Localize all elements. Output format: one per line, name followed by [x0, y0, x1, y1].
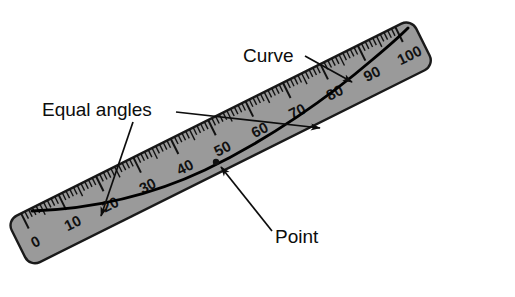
tangent-ruler-diagram: 0102030405060708090100 Curve Equal angle… [0, 0, 515, 297]
equal-angles-label: Equal angles [42, 99, 152, 120]
annotation-point: Point [213, 159, 319, 247]
point-leader-line [221, 167, 272, 231]
point-label: Point [275, 226, 319, 247]
tangency-point-marker [213, 159, 219, 165]
diagram-canvas: 0102030405060708090100 Curve Equal angle… [0, 0, 515, 297]
ruler: 0102030405060708090100 [7, 19, 435, 267]
curve-label: Curve [243, 45, 294, 66]
